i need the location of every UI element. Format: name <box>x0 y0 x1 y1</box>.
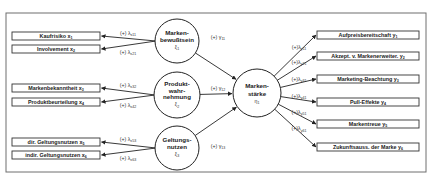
construct-symbol-sub: 3 <box>177 154 179 158</box>
indicator-label-sub: 2 <box>403 56 405 60</box>
gamma-coef-sub: 11 <box>221 37 225 41</box>
indicator-label-main: Zukunftsauss. der Marke y <box>333 144 401 150</box>
construct-label: nehmung <box>163 93 191 100</box>
construct-symbol-sub: 1 <box>257 101 259 105</box>
indicator-label-main: Produktbeurteilung x <box>28 99 82 105</box>
indicator-label-main: Akzept. v. Markenerweiter. y <box>331 53 403 59</box>
construct-symbol-sub: 2 <box>177 105 179 109</box>
construct-xi3: Geltungs-nutzenξ3 <box>155 126 199 170</box>
construct-symbol-sub: 1 <box>177 47 179 51</box>
construct-label: Marken- <box>245 82 269 89</box>
indicator-label-main: Kaufrisiko x <box>40 33 71 39</box>
lambda-y-coef-sub: y31 <box>301 79 307 83</box>
construct-label: stärke <box>248 90 267 97</box>
indicator-label-sub: 2 <box>73 49 75 53</box>
indicator-label-main: Marketing-Beachtung y <box>337 76 397 82</box>
lambda-y-coef-main: (+)λ <box>292 59 301 65</box>
lambda-y-coef-main: (+)λ <box>292 44 301 50</box>
indicator-label-sub: 4 <box>384 102 386 106</box>
gamma-coef-sub: 13 <box>221 146 225 150</box>
indicator-label-sub: 3 <box>82 88 84 92</box>
lambda-x-coef-sub: x53 <box>130 139 136 143</box>
lambda-x-coef-sub: x32 <box>130 85 136 89</box>
lambda-x-coef-main: (+) λ <box>120 49 131 55</box>
indicator-label-main: Markenbekanntheit x <box>28 85 82 91</box>
indicator-label-sub: 4 <box>82 102 84 106</box>
gamma-coef-main: (+) γ <box>211 143 222 149</box>
lambda-x-coef-main: (+) λ <box>120 102 131 108</box>
indicator-label-main: Pull-Effekte y <box>350 99 384 105</box>
lambda-x-coef-sub: x42 <box>130 105 136 109</box>
indicator-label-main: Markentreue y <box>349 121 386 127</box>
construct-label: nutzen <box>167 143 187 150</box>
lambda-x-coef-main: (+) λ <box>120 155 131 161</box>
lambda-y-coef-main: (+)λ <box>292 109 301 115</box>
indicator-label-sub: 6 <box>401 147 403 151</box>
indicator-label-main: Aufpreisbereitschaft y <box>339 32 396 38</box>
lambda-x-coef-main: (+) λ <box>120 30 131 36</box>
indicator-label-main: dir. Geltungsnutzen x <box>28 139 83 145</box>
lambda-y-coef-main: (+)λ <box>292 125 301 131</box>
indicator-label-sub: 3 <box>397 79 399 83</box>
lambda-y-coef-main: (+)λ <box>292 93 301 99</box>
lambda-x-coef-sub: x63 <box>130 158 136 162</box>
lambda-y-coef-sub: y51 <box>301 112 307 116</box>
indicator-label-main: indir. Geltungsnutzen x <box>25 152 85 158</box>
indicator-label-sub: 1 <box>395 35 397 39</box>
sem-diagram: Kaufrisiko x1(+) λx11Involvement x2(+) λ… <box>0 0 433 182</box>
gamma-coef-sub: 12 <box>221 88 225 92</box>
indicator-label-sub: 6 <box>85 155 87 159</box>
lambda-y-coef-sub: y21 <box>301 62 307 66</box>
construct-eta1: Marken-stärkeη1 <box>233 69 281 117</box>
construct-label: bewußtsein <box>160 36 194 43</box>
lambda-y-coef-main: (+)λ <box>292 76 301 82</box>
lambda-y-coef-sub: y61 <box>301 129 307 133</box>
lambda-x-coef-sub: x11 <box>131 33 137 37</box>
lambda-x-coef-sub: x21 <box>130 52 136 56</box>
indicator-label-main: Involvement x <box>37 46 73 52</box>
lambda-y-coef-sub: y11 <box>301 47 307 51</box>
gamma-coef-main: (+) γ <box>211 34 222 40</box>
gamma-coef-main: (+) γ <box>211 85 222 91</box>
indicator-label-sub: 5 <box>385 124 387 128</box>
construct-xi1: Marken-bewußtseinξ1 <box>155 19 199 63</box>
lambda-x-coef-main: (+) λ <box>120 82 131 88</box>
indicator-label-sub: 1 <box>70 36 72 40</box>
construct-xi2: Produkt-wahr-nehmungξ2 <box>154 72 200 118</box>
indicator-label-sub: 5 <box>82 142 84 146</box>
lambda-x-coef-main: (+) λ <box>120 136 131 142</box>
lambda-y-coef-sub: y41 <box>301 96 307 100</box>
